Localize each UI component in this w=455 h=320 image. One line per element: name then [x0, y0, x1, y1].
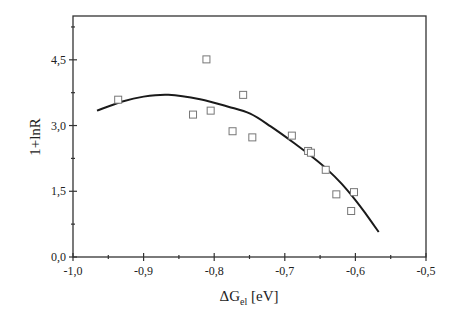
- data-point-square: [240, 91, 247, 98]
- data-point-square: [229, 128, 236, 135]
- data-point-square: [203, 56, 210, 63]
- x-tick-label: -0,7: [275, 264, 294, 278]
- x-axis-title-main: ΔG: [220, 288, 241, 304]
- y-tick-label: 3,0: [51, 119, 66, 133]
- data-point-square: [348, 207, 355, 214]
- x-tick-label: -0,8: [205, 264, 224, 278]
- data-point-square: [350, 189, 357, 196]
- y-tick-label: 1,5: [51, 184, 66, 198]
- data-points: [115, 56, 358, 215]
- data-point-square: [249, 134, 256, 141]
- scatter-chart: -1,0-0,9-0,8-0,7-0,6-0,5 0,01,53,04,5 ΔG…: [0, 0, 455, 320]
- data-point-square: [307, 149, 314, 156]
- x-tick-label: -0,6: [346, 264, 365, 278]
- y-axis-title: 1+lnR: [27, 118, 43, 156]
- fit-curve: [97, 95, 379, 232]
- y-tick-label: 4,5: [51, 53, 66, 67]
- data-point-square: [115, 96, 122, 103]
- x-axis-title-unit: [eV]: [247, 288, 278, 304]
- data-point-square: [333, 191, 340, 198]
- x-tick-label: -1,0: [64, 264, 83, 278]
- data-point-square: [322, 166, 329, 173]
- x-tick-label: -0,9: [134, 264, 153, 278]
- data-point-square: [190, 111, 197, 118]
- x-axis-title: ΔGel [eV]: [220, 288, 279, 307]
- data-point-square: [207, 107, 214, 114]
- data-point-square: [288, 132, 295, 139]
- x-tick-label: -0,5: [417, 264, 436, 278]
- y-tick-label: 0,0: [51, 250, 66, 264]
